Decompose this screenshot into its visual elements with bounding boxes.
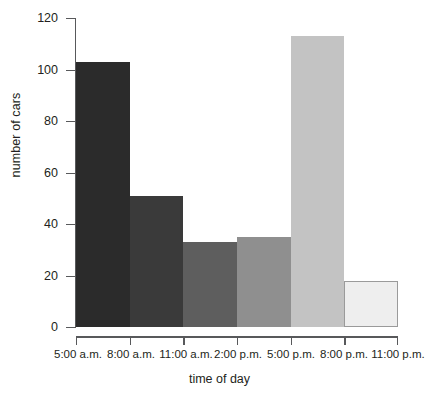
y-tick-label-80: 80 (24, 115, 58, 127)
y-axis-tick-100 (66, 70, 75, 71)
y-axis-tick-0 (66, 327, 75, 328)
y-tick-label-40: 40 (24, 218, 58, 230)
x-axis-tick-3 (237, 336, 238, 345)
y-axis-tick-20 (66, 276, 75, 277)
y-axis-tick-80 (66, 121, 75, 122)
bar-2 (183, 242, 237, 327)
y-tick-label-100: 100 (24, 64, 58, 76)
x-tick-label-1: 8:00 a.m. (107, 348, 155, 361)
y-tick-label-20: 20 (24, 270, 58, 282)
x-tick-label-0: 5:00 a.m. (54, 348, 102, 361)
y-axis-tick-labels: 120 100 80 60 40 20 0 (20, 0, 58, 398)
y-axis-tick-60 (66, 173, 75, 174)
x-axis-tick-1 (130, 336, 131, 345)
y-tick-label-60: 60 (24, 167, 58, 179)
x-axis-tick-4 (291, 336, 292, 345)
x-axis-title: time of day (0, 372, 439, 386)
bar-5 (344, 281, 398, 327)
y-axis-tick-120 (66, 18, 75, 19)
x-tick-label-4: 5:00 p.m. (267, 348, 315, 361)
plot-area (76, 18, 398, 327)
x-axis-tick-6 (397, 336, 398, 345)
x-axis-tick-0 (76, 336, 77, 345)
x-tick-label-3: 2:00 p.m. (214, 348, 262, 361)
x-axis-tick-5 (344, 336, 345, 345)
y-tick-label-120: 120 (24, 12, 58, 24)
y-tick-label-0: 0 (24, 321, 58, 333)
y-axis-tick-40 (66, 224, 75, 225)
bar-1 (130, 196, 184, 327)
bar-3 (237, 237, 291, 327)
x-tick-label-5: 8:00 p.m. (320, 348, 368, 361)
histogram-chart: number of cars 120 100 80 60 40 20 0 5:0… (0, 0, 439, 398)
bar-4 (291, 36, 345, 327)
x-tick-label-2: 11:00 a.m. (159, 348, 213, 361)
x-tick-label-6: 11:00 p.m. (371, 348, 425, 361)
bar-0 (76, 62, 130, 327)
x-axis-tick-2 (183, 336, 184, 345)
